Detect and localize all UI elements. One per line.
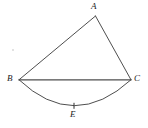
scan-speck [12, 49, 14, 51]
arc-BEC [19, 80, 131, 106]
vertex-label-e: E [70, 110, 76, 119]
vertex-label-c: C [134, 74, 140, 83]
geometry-figure: A B C E [0, 0, 148, 128]
segment-BA [19, 16, 96, 80]
vertex-label-b: B [7, 74, 13, 83]
vertex-label-a: A [91, 2, 97, 11]
segment-AC [96, 16, 132, 80]
